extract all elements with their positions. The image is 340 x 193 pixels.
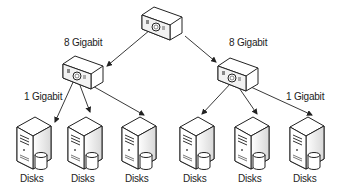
server-label: Disks bbox=[238, 173, 261, 184]
right-uplink-label: 8 Gigabit bbox=[229, 37, 267, 48]
server-disk-icon bbox=[122, 117, 156, 170]
server-disk-icon bbox=[68, 117, 102, 170]
server-label: Disks bbox=[20, 173, 43, 184]
left-uplink-label: 8 Gigabit bbox=[64, 37, 102, 48]
server-disk-icon bbox=[180, 117, 214, 170]
server-label: Disks bbox=[125, 173, 148, 184]
core-switch-icon bbox=[142, 7, 182, 40]
server-label: Disks bbox=[183, 173, 206, 184]
uplink-left-arrow bbox=[107, 30, 150, 66]
server-label: Disks bbox=[293, 173, 316, 184]
uplink-right-arrow bbox=[185, 36, 216, 62]
server-disk-icon bbox=[17, 117, 51, 170]
right-downlink-label: 1 Gigabit bbox=[286, 91, 324, 102]
left-switch-icon bbox=[63, 56, 103, 89]
server-label: Disks bbox=[71, 173, 94, 184]
server-disk-icon bbox=[290, 117, 324, 170]
left-downlink-label: 1 Gigabit bbox=[24, 91, 62, 102]
server-disk-icon bbox=[235, 117, 269, 170]
link-arrow bbox=[202, 82, 232, 114]
right-switch-icon bbox=[218, 58, 258, 91]
